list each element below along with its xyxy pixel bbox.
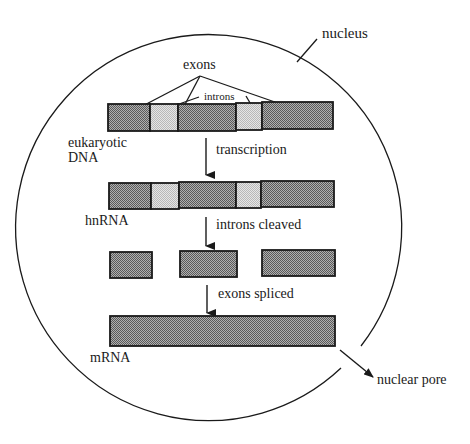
dna-label-line2: DNA bbox=[68, 150, 99, 165]
exons-label: exons bbox=[183, 57, 216, 72]
hnrna-intron-2 bbox=[236, 182, 261, 208]
mrna-strand bbox=[110, 316, 335, 346]
hnrna-exon-3 bbox=[261, 181, 334, 207]
hnrna-intron-1 bbox=[151, 183, 179, 209]
dna-intron-1 bbox=[150, 104, 178, 131]
dna-strand bbox=[108, 102, 333, 131]
introns-cleaved-label: introns cleaved bbox=[216, 217, 301, 232]
hnrna-exon-2 bbox=[179, 182, 236, 208]
dna-exon-1 bbox=[108, 104, 150, 131]
hnrna-exon-1 bbox=[109, 183, 151, 209]
hnrna-label: hnRNA bbox=[85, 213, 129, 228]
mrna-label: mRNA bbox=[90, 350, 131, 365]
dna-intron-2 bbox=[236, 103, 262, 130]
hnrna-strand bbox=[109, 181, 334, 209]
cleaved-exon-2 bbox=[180, 251, 237, 277]
nuclear-pore-label: nuclear pore bbox=[377, 372, 447, 387]
exons-spliced-label: exons spliced bbox=[218, 286, 294, 301]
introns-label: introns bbox=[204, 90, 235, 102]
cleaved-exon-3 bbox=[262, 250, 335, 276]
dna-label-line1: eukaryotic bbox=[68, 135, 127, 150]
cleaved-exons bbox=[110, 250, 335, 278]
nuclear-pore-arrow bbox=[340, 350, 373, 377]
nucleus-leader-line bbox=[297, 39, 317, 62]
transcription-label: transcription bbox=[216, 142, 287, 157]
cleaved-exon-1 bbox=[110, 252, 152, 278]
nucleus-label: nucleus bbox=[322, 25, 368, 41]
dna-exon-3 bbox=[262, 102, 333, 129]
diagram-canvas: nucleus exons introns eukaryotic DNA tra… bbox=[0, 0, 470, 444]
dna-exon-2 bbox=[178, 104, 236, 131]
